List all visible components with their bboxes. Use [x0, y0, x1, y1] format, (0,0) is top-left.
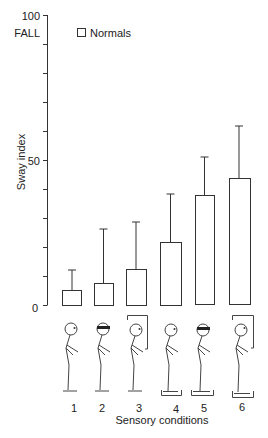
stick-figure-6-icon [233, 316, 254, 398]
bar-5 [196, 157, 215, 305]
chart-canvas: 100 FALL 50 0 Sway index Normals [0, 0, 268, 438]
fall-annotation: FALL [14, 27, 40, 39]
bar-1 [63, 270, 82, 306]
bar-6 [230, 126, 251, 305]
y-tick-label-0: 0 [32, 302, 38, 314]
bar-4 [161, 194, 182, 306]
y-tick-label-50: 50 [28, 155, 40, 167]
y-axis-label: Sway index [15, 133, 27, 190]
x-tick-label-6: 6 [239, 401, 245, 413]
x-tick-label-2: 2 [99, 402, 105, 414]
stick-figure-3-icon [128, 316, 148, 392]
stick-figure-2-icon [95, 323, 110, 391]
x-tick-label-5: 5 [201, 402, 207, 414]
stick-figure-1-icon [63, 323, 78, 391]
y-tick-label-100: 100 [22, 10, 40, 22]
y-axis [43, 15, 48, 306]
x-tick-label-1: 1 [71, 402, 77, 414]
x-axis-label: Sensory conditions [116, 414, 209, 426]
x-tick-labels: 1 2 3 4 5 6 [71, 401, 245, 415]
stick-figure-4-icon [162, 324, 182, 396]
bar-2 [95, 229, 114, 306]
condition-icons [63, 316, 254, 398]
bars [63, 126, 251, 306]
legend-swatch-icon [78, 29, 86, 37]
x-tick-label-3: 3 [136, 402, 142, 414]
legend-label-normals: Normals [90, 27, 131, 39]
legend: Normals [78, 27, 132, 39]
bar-3 [127, 222, 147, 306]
stick-figure-5-icon [192, 324, 214, 396]
